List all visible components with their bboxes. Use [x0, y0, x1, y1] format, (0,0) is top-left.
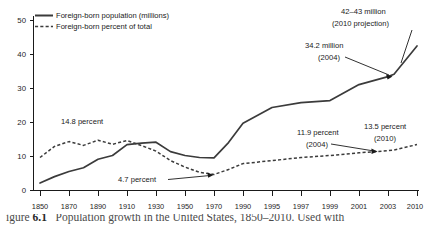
y-tick-label-50: 50 [17, 16, 26, 25]
annotation-4-7-percent-text: 4.7 percent [118, 175, 157, 184]
y-tick-label-0: 0 [22, 186, 27, 195]
x-tick-label-1997: 1997 [293, 202, 309, 211]
population-growth-chart: 0 10 20 30 40 50 1850 1870 18 [0, 0, 424, 225]
x-axis: 1850 1870 1890 1910 1930 1950 1970 1990 … [32, 191, 423, 212]
annotation-14-8-percent: 14.8 percent [61, 117, 104, 126]
figure-container: 0 10 20 30 40 50 1850 1870 18 [0, 0, 424, 225]
x-tick-label-1990: 1990 [235, 202, 251, 211]
x-tick-label-2003: 2003 [380, 202, 396, 211]
y-tick-label-30: 30 [17, 84, 26, 93]
annotation-4-7-arrowhead [208, 172, 214, 177]
y-tick-label-10: 10 [17, 152, 26, 161]
annotation-4-7-leader [168, 176, 210, 180]
x-tick-label-1870: 1870 [61, 202, 77, 211]
series-line-foreign-born-percent [40, 140, 417, 174]
annotation-13-5-percent-sub: (2010) [374, 134, 396, 143]
annotation-11-9-leader [331, 144, 374, 151]
figure-caption-number: 6.1 [33, 214, 47, 223]
series-line-foreign-born-population [40, 46, 417, 183]
annotation-34-2-leader [345, 57, 389, 75]
legend-label-population: Foreign-born population (millions) [56, 11, 170, 20]
figure-caption-body: Population growth in the United States, … [56, 214, 345, 223]
annotation-13-5-percent: 13.5 percent (2010) [364, 122, 407, 143]
annotation-34-2-million-text: 34.2 million [305, 41, 343, 50]
figure-caption: igure 6.1 Population growth in the Unite… [0, 214, 424, 225]
annotation-11-9-percent: 11.9 percent (2004) [297, 128, 378, 154]
x-tick-label-1890: 1890 [90, 202, 106, 211]
figure-caption-line: igure 6.1 Population growth in the Unite… [6, 214, 344, 223]
chart-legend: Foreign-born population (millions) Forei… [35, 11, 170, 31]
y-axis: 0 10 20 30 40 50 [17, 16, 33, 195]
annotation-13-5-percent-text: 13.5 percent [364, 122, 407, 131]
annotation-11-9-percent-text: 11.9 percent [297, 128, 340, 137]
annotation-42-43-million: 42–43 million (2010 projection) [332, 7, 412, 63]
x-tick-label-2010: 2010 [407, 202, 423, 211]
annotation-14-8-percent-text: 14.8 percent [61, 117, 104, 126]
x-tick-label-1850: 1850 [32, 202, 48, 211]
annotation-34-2-million: 34.2 million (2004) [305, 41, 393, 79]
y-tick-label-20: 20 [17, 118, 26, 127]
figure-caption-prefix: igure [6, 214, 30, 223]
x-tick-label-2001: 2001 [351, 202, 367, 211]
x-tick-label-1970: 1970 [206, 202, 222, 211]
annotation-11-9-percent-sub: (2004) [306, 140, 328, 149]
annotation-42-43-million-text: 42–43 million [341, 7, 386, 16]
x-tick-label-1930: 1930 [148, 202, 164, 211]
annotation-11-9-arrowhead [371, 149, 377, 154]
x-tick-label-1999: 1999 [322, 202, 338, 211]
annotation-4-7-percent: 4.7 percent [118, 172, 214, 184]
y-tick-label-40: 40 [17, 50, 26, 59]
x-tick-label-1910: 1910 [119, 202, 135, 211]
annotation-42-43-million-sub: (2010 projection) [332, 19, 389, 28]
x-tick-label-1950: 1950 [177, 202, 193, 211]
annotation-34-2-million-sub: (2004) [318, 53, 340, 62]
x-tick-label-1995: 1995 [264, 202, 280, 211]
legend-label-percent: Foreign-born percent of total [56, 22, 152, 31]
